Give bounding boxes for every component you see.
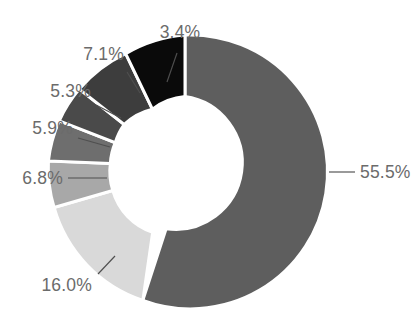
data-label-7: 3.4% [160, 22, 201, 42]
donut-chart-container: 55.5% 16.0% 6.8% 5.9% 5.3% 7.1% 3.4% [0, 0, 411, 327]
data-label-2: 16.0% [41, 275, 92, 295]
data-label-6: 7.1% [83, 44, 124, 64]
data-label-1: 55.5% [360, 162, 411, 182]
data-label-5: 5.3% [50, 81, 91, 101]
data-label-3: 6.8% [22, 168, 63, 188]
donut-chart: 55.5% 16.0% 6.8% 5.9% 5.3% 7.1% 3.4% [0, 0, 411, 327]
data-label-4: 5.9% [32, 118, 73, 138]
